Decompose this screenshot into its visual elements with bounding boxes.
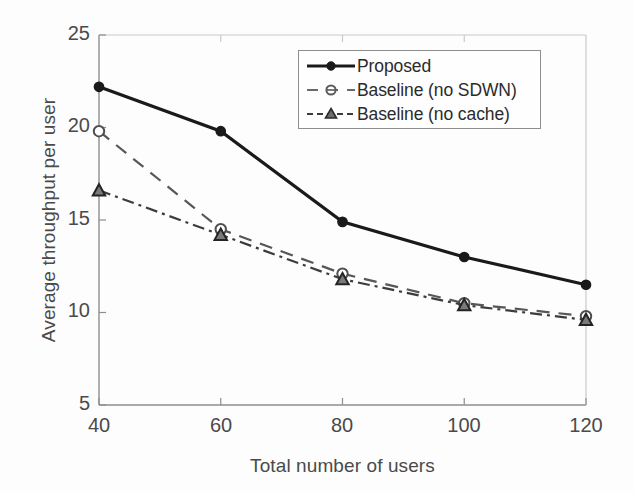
legend-sample-solid-circle-icon	[305, 56, 357, 76]
legend-sample-dashed-open-circle-icon	[305, 80, 357, 100]
legend-label-proposed: Proposed	[357, 56, 431, 77]
data-point-1-0	[94, 126, 104, 136]
data-point-0-1	[216, 127, 225, 136]
data-point-0-4	[581, 280, 590, 289]
legend-entry-no-cache: Baseline (no cache)	[299, 102, 540, 126]
legend: Proposed Baseline (no SDWN) Baseline (no…	[298, 50, 541, 129]
data-point-0-2	[338, 217, 347, 226]
x-tick-label-80: 80	[312, 414, 372, 437]
x-tick-label-40: 40	[69, 414, 129, 437]
series-line-2	[99, 190, 586, 320]
data-point-2-0	[93, 184, 105, 195]
legend-label-no-cache: Baseline (no cache)	[357, 104, 510, 125]
x-tick-label-60: 60	[191, 414, 251, 437]
x-axis-label: Total number of users	[99, 455, 586, 477]
legend-entry-no-sdwn: Baseline (no SDWN)	[299, 78, 540, 102]
legend-label-no-sdwn: Baseline (no SDWN)	[357, 80, 517, 101]
x-tick-label-120: 120	[556, 414, 616, 437]
data-point-0-0	[94, 82, 103, 91]
data-point-0-3	[460, 252, 469, 261]
legend-entry-proposed: Proposed	[299, 54, 540, 78]
chart-figure: 25 20 15 10 5 40 60 80 100 120 Average t…	[0, 0, 634, 492]
legend-sample-dashdot-triangle-icon	[305, 104, 357, 124]
x-tick-label-100: 100	[434, 414, 494, 437]
y-axis-label: Average throughput per user	[38, 35, 60, 405]
